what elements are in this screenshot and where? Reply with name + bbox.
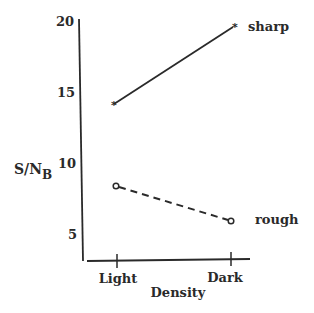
y-axis (79, 19, 83, 261)
series-rough-marker-dark (228, 218, 234, 224)
x-axis-title: Density (151, 285, 206, 300)
x-axis (87, 259, 250, 261)
series-sharp-marker-light: * (111, 99, 117, 112)
x-category-light: Light (99, 271, 138, 286)
y-axis-title: S/NB (14, 161, 52, 182)
y-tick-15: 15 (57, 85, 75, 100)
series-rough-label: rough (255, 212, 299, 227)
series-rough-marker-light (113, 183, 119, 189)
series-sharp-marker-dark: * (232, 21, 238, 34)
y-tick-5: 5 (68, 227, 77, 242)
x-category-dark: Dark (207, 270, 244, 285)
chart: 20 15 10 5 S/NB Light Dark Density * * s… (0, 0, 314, 313)
y-tick-10: 10 (58, 156, 76, 171)
series-rough-line (119, 187, 228, 220)
series-sharp-label: sharp (248, 19, 289, 34)
y-tick-20: 20 (56, 14, 74, 29)
series-sharp-line (114, 27, 233, 104)
